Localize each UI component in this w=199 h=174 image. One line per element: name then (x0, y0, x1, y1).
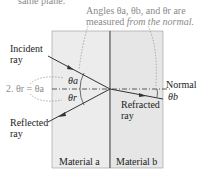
normal-label: Normal (166, 80, 197, 90)
material-a-label: Material a (59, 157, 100, 167)
top-fragment: same plane. (18, 0, 65, 6)
reflection-law: 2. θr = θa (6, 84, 44, 94)
annotation-prefix: measured (86, 16, 127, 27)
annotation-italic: from the normal. (127, 16, 194, 27)
reflected-label-2: ray (10, 129, 23, 139)
reflected-label: Reflected (10, 118, 48, 128)
refracted-label-2: ray (121, 111, 134, 121)
theta-r-label: θr (68, 93, 77, 103)
material-b-label: Material b (116, 157, 157, 167)
incident-label-2: ray (10, 55, 23, 65)
theta-b-label: θb (168, 92, 178, 102)
theta-a-label: θa (68, 76, 78, 86)
annotation-line1: Angles θa, θb, and θr are (86, 6, 186, 16)
incident-label: Incident (10, 44, 43, 54)
refracted-label: Refracted (121, 100, 160, 110)
annotation-line2: measured from the normal. (86, 17, 194, 27)
material-a-region (52, 31, 110, 168)
